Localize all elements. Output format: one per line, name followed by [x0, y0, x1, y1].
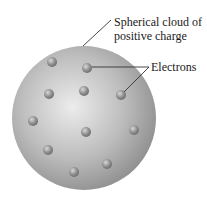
- sphere-label: Spherical cloud of positive charge: [114, 15, 202, 43]
- electron: [28, 116, 38, 126]
- electron: [44, 89, 54, 99]
- electron: [69, 167, 79, 177]
- sphere-leader-line: [83, 20, 111, 46]
- electrons-label: Electrons: [151, 60, 196, 74]
- electron: [79, 86, 89, 96]
- electron: [81, 127, 91, 137]
- sphere-label-line1: Spherical cloud of: [114, 15, 202, 29]
- electron: [43, 145, 53, 155]
- electron: [102, 159, 112, 169]
- electron: [47, 57, 57, 67]
- sphere-label-line2: positive charge: [114, 29, 202, 43]
- electron: [82, 63, 92, 73]
- electron: [129, 125, 139, 135]
